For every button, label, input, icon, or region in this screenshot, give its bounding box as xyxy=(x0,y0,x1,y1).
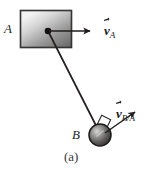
connecting-rod xyxy=(48,31,98,129)
va-subscript: A xyxy=(110,30,115,40)
relative-velocity-vector-b-a-label: v B/A xyxy=(116,105,135,121)
figure-caption: (a) xyxy=(64,150,78,163)
vector-overarrow-icon xyxy=(116,100,122,105)
vba-symbol-stack: v xyxy=(116,105,122,121)
physics-figure-relative-velocity: A B (a) v A v B/A xyxy=(0,0,158,171)
ball-b-body xyxy=(89,124,111,146)
va-symbol-stack: v xyxy=(104,22,110,38)
vba-subscript: B/A xyxy=(122,113,135,123)
vba-symbol: v xyxy=(116,106,122,121)
figure-canvas xyxy=(0,0,158,171)
ball-b-label: B xyxy=(72,128,80,141)
ball-b xyxy=(89,124,111,146)
block-a-label: A xyxy=(4,22,12,35)
velocity-vector-a-label: v A xyxy=(104,22,115,38)
va-symbol: v xyxy=(104,23,110,38)
vector-overarrow-icon xyxy=(104,17,110,22)
